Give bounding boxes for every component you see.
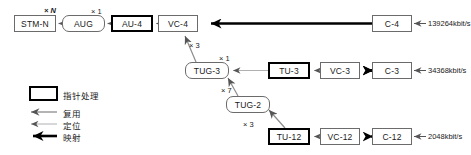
node-label: AU-4 [122,19,142,29]
multiplier-tug3-7: × 7 [221,86,232,95]
node-tu-3[interactable]: TU-3 [268,62,310,79]
node-tu-12[interactable]: TU-12 [268,128,310,145]
node-label: C-4 [385,19,399,29]
node-label: TU-12 [277,132,302,142]
node-label: TUG-3 [194,66,221,76]
node-vc-3[interactable]: VC-3 [320,62,360,79]
legend-map-label: 映射 [63,131,81,143]
node-label: C-3 [385,66,399,76]
node-tug-3[interactable]: TUG-3 [185,62,229,79]
bitrate-c3: 34368kbit/s [428,66,466,75]
node-c-4[interactable]: C-4 [372,15,412,32]
bitrate-c12: 2048kbit/s [428,132,462,141]
multiplier-tug3-1: × 1 [219,54,230,63]
node-vc-12[interactable]: VC-12 [320,128,360,145]
node-stm-n[interactable]: STM-N [14,15,56,32]
legend-pointer-label: 指针处理 [63,89,99,101]
multiplier-n: × N [44,6,56,15]
node-label: TUG-2 [235,100,262,110]
node-c-3[interactable]: C-3 [372,62,412,79]
node-label: VC-4 [168,19,188,29]
multiplier-vc4-3: × 3 [189,41,200,50]
legend-pointer-box [29,86,58,101]
multiplier-au4: × 1 [91,7,102,16]
node-au-4[interactable]: AU-4 [111,15,153,32]
node-c-12[interactable]: C-12 [372,128,412,145]
multiplier-tug2-3: × 3 [243,120,254,129]
node-label: STM-N [21,19,49,29]
node-label: C-12 [382,132,401,142]
node-label: VC-3 [330,66,350,76]
legend-align-label: 定位 [63,119,81,131]
node-aug[interactable]: AUG [62,15,105,32]
bitrate-c4: 139264kbit/s [428,19,471,28]
node-tug-2[interactable]: TUG-2 [226,96,270,113]
node-label: AUG [74,19,93,29]
node-label: TU-3 [279,66,299,76]
link-tu12-to-tug2 [269,110,285,128]
node-label: VC-12 [327,132,352,142]
legend-multiplex-label: 复用 [63,107,81,119]
node-vc-4[interactable]: VC-4 [158,15,198,32]
